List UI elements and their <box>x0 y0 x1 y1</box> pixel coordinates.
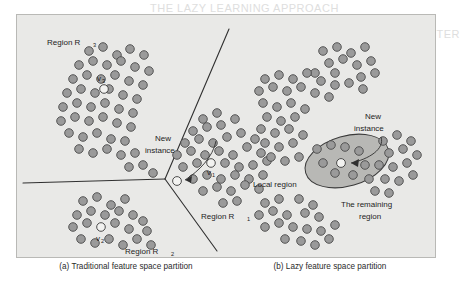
new-instance-node-b <box>337 159 346 168</box>
cluster-bottom <box>255 195 340 250</box>
caption-panel-a: (a) Traditional feature space partition <box>28 262 224 271</box>
ghost-text-top: THE LAZY LEARNING APPROACH <box>150 2 339 14</box>
label-remaining-region-line1: The remaining <box>341 200 392 209</box>
panel-b: New instance Local region The remaining … <box>253 43 421 250</box>
figure-svg: Region R 3 Region R 1 Region R 2 New ins… <box>17 15 435 257</box>
label-remaining-region-line2: region <box>359 212 381 221</box>
label-v2: v <box>96 234 100 243</box>
label-region-1-sub: 1 <box>247 216 250 222</box>
label-region-2-sub: 2 <box>171 251 174 257</box>
captions: (a) Traditional feature space partition … <box>0 262 452 286</box>
label-v2-sub: 2 <box>101 238 104 244</box>
label-new-instance-b-line2: instance <box>354 124 384 133</box>
partition-line-left <box>23 179 165 183</box>
label-region-3: Region R <box>47 38 81 47</box>
label-new-instance-a-line1: New <box>155 134 171 143</box>
prototype-v3-node <box>100 85 109 94</box>
cluster-top <box>311 43 380 82</box>
new-instance-node-a <box>173 177 182 186</box>
figure-panels: Region R 3 Region R 1 Region R 2 New ins… <box>16 14 436 258</box>
label-new-instance-b-line1: New <box>365 112 381 121</box>
label-v3: v <box>97 74 101 83</box>
label-new-instance-a-line2: instance <box>145 146 175 155</box>
label-v3-sub: 3 <box>102 78 105 84</box>
label-region-2: Region R <box>125 247 159 256</box>
cluster-region-2 <box>69 193 156 250</box>
label-region-3-sub: 3 <box>93 42 96 48</box>
cluster-region-3 <box>57 43 158 178</box>
label-v1: v <box>207 168 211 177</box>
cluster-region-1 <box>173 109 272 208</box>
cluster-right <box>371 131 422 198</box>
label-v1-sub: 1 <box>212 172 215 178</box>
label-local-region: Local region <box>253 180 297 189</box>
label-region-1: Region R <box>201 212 235 221</box>
panel-a: Region R 3 Region R 1 Region R 2 New ins… <box>23 29 271 257</box>
caption-panel-b: (b) Lazy feature space partition <box>232 262 428 271</box>
prototype-v2-node <box>97 223 106 232</box>
prototype-v1-node <box>207 159 216 168</box>
new-instance-arrowhead-a <box>185 176 192 183</box>
